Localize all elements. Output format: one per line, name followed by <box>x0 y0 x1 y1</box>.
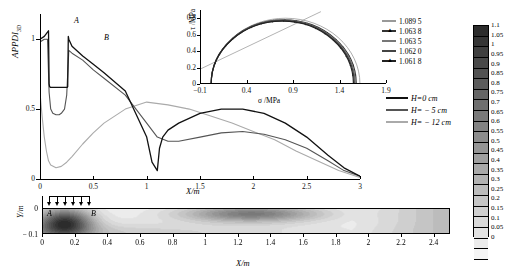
inset-y-axis-label: τ /MPa <box>188 9 197 30</box>
colorbar-tick-label: 0.8 <box>491 80 500 87</box>
load-arrow-head <box>63 202 67 206</box>
inset-legend-swatch: ▲ <box>382 30 396 32</box>
colorbar-tick-label: 0.15 <box>491 205 503 212</box>
colorbar-band <box>474 228 488 239</box>
inset-x-tick <box>200 80 201 83</box>
main-y-axis-label: APPDI3D <box>10 44 22 58</box>
inset-y-tick-label: 0.4 <box>178 47 196 55</box>
contour-x-tick <box>75 234 76 237</box>
colorbar-tick-label: 1.05 <box>491 32 503 39</box>
load-arrow-head <box>47 202 51 206</box>
inset-y-tick-label: 0 <box>178 80 196 88</box>
colorbar-tick-label: 0.25 <box>491 186 503 193</box>
colorbar-band <box>474 69 488 80</box>
colorbar-band <box>474 26 488 37</box>
inset-y-axis <box>200 10 201 84</box>
inset-y-tick <box>197 35 200 36</box>
main-legend-label: H=0 cm <box>411 94 438 103</box>
colorbar-band <box>474 154 488 165</box>
contour-x-tick-label: 2 <box>359 238 377 247</box>
inset-x-tick-label: −0.1 <box>188 87 212 95</box>
colorbar-tick-label: 0.9 <box>491 61 500 68</box>
inset-legend-item: 1.089 5 <box>382 16 422 26</box>
inset-legend-label: 1.089 5 <box>399 17 422 26</box>
main-legend-item: H= − 12 cm <box>386 116 451 128</box>
main-y-tick <box>36 179 40 180</box>
load-arrow-head <box>87 202 91 206</box>
inset-legend-label: 1.061 8 <box>399 57 422 66</box>
colorbar-band <box>474 100 488 111</box>
inset-legend-swatch: ▲ <box>382 60 396 62</box>
main-x-tick-label: 3 <box>353 183 367 191</box>
colorbar-tick-label: 0.7 <box>491 99 500 106</box>
inset-circles <box>200 8 386 86</box>
contour-x-tick-label: 0.2 <box>66 238 84 247</box>
colorbar-band <box>474 90 488 101</box>
contour-x-tick-label: 1.4 <box>261 238 279 247</box>
contour-x-tick <box>336 234 337 237</box>
inset-y-tick <box>197 84 200 85</box>
colorbar-tick-label: 0.45 <box>491 147 503 154</box>
main-x-tick-label: 0.5 <box>86 183 100 191</box>
inset-legend-item: 1.063 5 <box>382 36 422 46</box>
colorbar-tick-label: 0.55 <box>491 128 503 135</box>
contour-x-tick <box>270 234 271 237</box>
contour-x-tick-label: 2.2 <box>392 238 410 247</box>
colorbar-tick-label: 0.2 <box>491 195 500 202</box>
inset-x-tick <box>340 80 341 83</box>
main-x-tick <box>200 176 201 179</box>
contour-x-axis-label: X/m <box>236 258 250 268</box>
inset-x-tick-label: 0.4 <box>235 87 259 95</box>
inset-legend: 1.089 5▲1.063 81.063 51.062 0▲1.061 8 <box>382 16 422 66</box>
inset-legend-label: 1.063 5 <box>399 37 422 46</box>
inset-legend-swatch <box>382 20 396 22</box>
inset-legend-item: ▲1.061 8 <box>382 56 422 66</box>
main-y-tick-label: 0 <box>16 175 35 183</box>
colorbar-tick-label: 0.35 <box>491 167 503 174</box>
load-arrow-head <box>71 202 75 206</box>
contour-x-tick <box>401 234 402 237</box>
colorbar-band <box>474 196 488 207</box>
colorbar-band <box>474 132 488 143</box>
colorbar-band <box>474 79 488 90</box>
inset-x-axis-label: σ /MPa <box>258 96 280 105</box>
colorbar-tick-label: 0.05 <box>491 224 503 231</box>
main-legend-swatch <box>386 109 408 110</box>
main-legend-swatch <box>386 97 408 99</box>
inset-x-tick <box>293 80 294 83</box>
main-legend-item: H= − 5 cm <box>386 104 451 116</box>
colorbar-tick-label: 1 <box>491 41 495 48</box>
colorbar-band <box>474 164 488 175</box>
contour-y-tick-label: − 0.1 <box>18 230 38 239</box>
colorbar-band <box>474 217 488 228</box>
contour-x-tick-label: 0.8 <box>164 238 182 247</box>
contour-x-tick <box>434 234 435 237</box>
colorbar-tick-label: 0.3 <box>491 176 500 183</box>
colorbar-band <box>474 122 488 133</box>
colorbar-tick-label: 0.75 <box>491 89 503 96</box>
inset-y-tick-label: 0.6 <box>178 31 196 39</box>
inset-legend-item: ▲1.063 8 <box>382 26 422 36</box>
main-y-tick-label: 0.5 <box>16 105 35 113</box>
contour-x-tick-label: 2.4 <box>425 238 443 247</box>
contour-x-tick <box>42 234 43 237</box>
inset-legend-label: 1.063 8 <box>399 27 422 36</box>
contour-y-tick-label: 0 <box>18 204 38 213</box>
inset-legend-item: 1.062 0 <box>382 46 422 56</box>
contour-left-edge <box>42 196 43 208</box>
colorbar-tick-label: 0.5 <box>491 138 500 145</box>
inset-x-axis <box>200 83 386 84</box>
main-x-tick-label: 2.5 <box>300 183 314 191</box>
colorbar-tick-label: 0.95 <box>491 51 503 58</box>
colorbar-band <box>474 175 488 186</box>
contour-x-tick <box>368 234 369 237</box>
contour-annotation-a: A <box>47 209 52 218</box>
main-x-axis-label: X/m <box>186 186 200 196</box>
main-x-tick-label: 2 <box>246 183 260 191</box>
load-arrow-head <box>79 202 83 206</box>
main-legend: H=0 cmH= − 5 cmH= − 12 cm <box>386 92 451 128</box>
contour-x-tick <box>205 234 206 237</box>
contour-x-tick-label: 1.6 <box>294 238 312 247</box>
load-bar <box>49 196 89 197</box>
figure-root: 00.511.522.5300.51 APPDI3D X/m A B −0.10… <box>0 0 524 275</box>
